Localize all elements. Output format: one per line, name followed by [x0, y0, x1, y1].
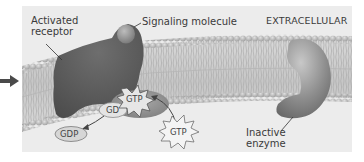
- svg-text:GD: GD: [106, 105, 120, 115]
- svg-text:GDP: GDP: [60, 129, 78, 139]
- inactive-enzyme-label: Inactive enzyme: [246, 127, 286, 149]
- svg-text:GTP: GTP: [126, 94, 143, 104]
- signaling-molecule: [117, 25, 135, 44]
- extracellular-label: EXTRACELLULAR: [266, 15, 348, 26]
- signaling-molecule-label: Signaling molecule: [142, 16, 237, 27]
- gtp-free-starburst: GTP: [159, 115, 199, 149]
- release-arrow: [86, 116, 104, 127]
- activated-receptor-label: Activated receptor: [31, 15, 78, 37]
- pathway-entry-arrow: [0, 75, 19, 87]
- svg-text:GTP: GTP: [170, 127, 187, 137]
- signal-leader: [134, 23, 141, 27]
- gdp-released-chip: GDP: [55, 127, 87, 142]
